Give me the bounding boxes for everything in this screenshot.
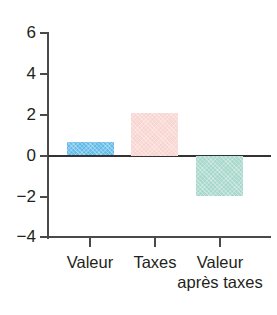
y-axis-tick-4: [40, 73, 48, 75]
bar-taxes: [131, 113, 178, 156]
y-axis-label-0: 0: [2, 147, 36, 164]
x-axis-label-valeur-apres-taxes-line1: Valeur: [197, 253, 243, 271]
x-axis-label-valeur-apres-taxes-line2: après taxes: [174, 272, 266, 292]
x-axis-tick-taxes: [154, 238, 156, 247]
y-axis-label-6: 6: [2, 24, 36, 41]
bar-valeur-apres-taxes: [196, 156, 243, 196]
x-axis-line: [47, 236, 271, 238]
y-axis-label-2: 2: [2, 106, 36, 123]
y-axis-label-neg4: −4: [2, 228, 36, 245]
y-axis-tick-6: [40, 32, 48, 34]
y-axis-label-neg2: −2: [2, 188, 36, 205]
x-axis-tick-valeur-apres-taxes: [219, 238, 221, 247]
bar-chart-figure: 6 4 2 0 −2 −4 Valeur Taxes Valeur après …: [0, 0, 277, 315]
y-axis-tick-0: [40, 155, 48, 157]
y-axis-tick-neg4: [40, 236, 48, 238]
y-axis-tick-neg2: [40, 196, 48, 198]
y-axis-line: [47, 32, 49, 239]
x-axis-label-taxes-line1: Taxes: [133, 253, 176, 271]
y-axis-label-4: 4: [2, 65, 36, 82]
x-axis-tick-valeur: [89, 238, 91, 247]
x-axis-label-valeur-apres-taxes: Valeur après taxes: [174, 252, 266, 292]
bar-valeur: [67, 142, 114, 155]
y-axis-tick-2: [40, 114, 48, 116]
x-axis-label-valeur-line1: Valeur: [67, 253, 113, 271]
